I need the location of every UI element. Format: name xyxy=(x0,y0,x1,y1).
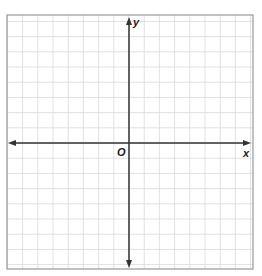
coordinate-plane xyxy=(0,0,262,276)
x-axis-right-arrow-icon xyxy=(243,140,251,146)
y-axis-label: y xyxy=(133,16,139,28)
grid-frame xyxy=(7,15,253,269)
y-axis-down-arrow-icon xyxy=(126,260,132,268)
grid-lines xyxy=(7,15,253,269)
x-axis-label: x xyxy=(243,147,249,159)
x-axis-left-arrow-icon xyxy=(8,140,16,146)
origin-label: O xyxy=(117,146,126,158)
